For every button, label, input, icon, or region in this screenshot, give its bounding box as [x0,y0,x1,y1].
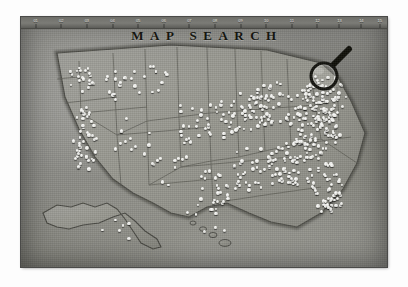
page-title: MAP SEARCH [21,28,387,44]
map-photograph-plate: 010203040506070809101112131415 MAP SEARC… [21,17,387,267]
screenshot-root: 010203040506070809101112131415 MAP SEARC… [0,0,408,287]
